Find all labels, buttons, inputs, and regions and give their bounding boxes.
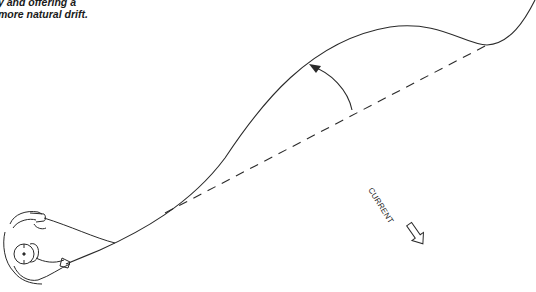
angler-figure-icon [4,212,115,285]
original-line-dashed [165,45,487,213]
drift-diagram [0,0,536,292]
current-arrow-icon [403,220,428,248]
mend-arrow-icon [309,64,352,110]
